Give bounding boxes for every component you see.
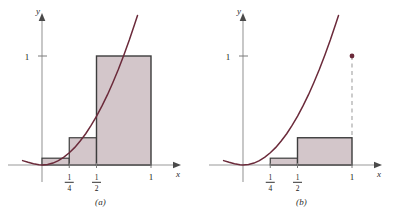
x-tick-label-quarter-b: 1 4 [266,173,275,193]
x-tick-label-one-b: 1 [350,172,355,182]
panel-a: y x 1 1 4 [0,0,201,219]
point-marker-b [350,54,355,59]
panel-a-plot: y x 1 1 4 [0,0,201,219]
x-tick-label-half-b: 1 2 [293,173,302,193]
y-axis-label-a: y [35,6,40,16]
x-axis-arrow-b [374,162,382,168]
rect-a-2 [69,138,96,165]
rect-b-1 [270,158,297,165]
y-axis-label-b: y [236,6,241,16]
panel-b-plot: y x 1 1 4 [201,0,402,219]
x-tick-half-numerator-a: 1 [95,173,99,182]
figure-riemann-sums: y x 1 1 4 [0,0,402,219]
y-tick-label-1-a: 1 [25,52,30,62]
x-axis-arrow-a [173,162,181,168]
y-tick-label-1-b: 1 [226,52,231,62]
rect-b-2 [298,138,353,165]
x-tick-half-numerator-b: 1 [296,173,300,182]
x-tick-quarter-numerator-a: 1 [67,173,71,182]
x-tick-quarter-numerator-b: 1 [268,173,272,182]
x-tick-half-denominator-a: 2 [95,184,99,193]
x-tick-label-half-a: 1 2 [92,173,101,193]
x-tick-quarter-denominator-b: 4 [268,184,272,193]
panel-a-caption: (a) [0,197,201,207]
panel-b: y x 1 1 4 [201,0,402,219]
x-tick-label-one-a: 1 [149,172,154,182]
x-axis-label-b: x [376,169,381,179]
panel-b-caption: (b) [201,197,402,207]
x-tick-label-quarter-a: 1 4 [65,173,74,193]
x-axis-label-a: x [175,169,180,179]
rect-a-3 [97,56,152,165]
x-tick-quarter-denominator-a: 4 [67,184,71,193]
x-tick-half-denominator-b: 2 [296,184,300,193]
